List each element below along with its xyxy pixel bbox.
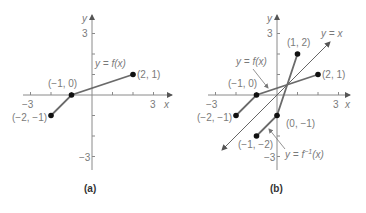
- finv-label-b: y = f−1(x): [284, 148, 324, 160]
- y-axis-label-b: y: [266, 13, 273, 24]
- point-label-b-f1: (−2, −1): [197, 112, 232, 123]
- point-label-b-g3: (1, 2): [287, 37, 310, 48]
- point-a-2: [69, 92, 75, 98]
- point-b-g1: [254, 133, 260, 139]
- caption-b: (b): [270, 183, 283, 194]
- point-label-b-f2: (−1, 0): [228, 78, 257, 89]
- point-b-f2: [254, 92, 260, 98]
- point-label-b-g1: (−1, −2): [238, 139, 273, 150]
- tick-x-neg-b: −3: [206, 99, 218, 110]
- point-a-3: [130, 72, 136, 78]
- point-label-b-f3: (2, 1): [322, 69, 345, 80]
- caption-a: (a): [84, 183, 96, 194]
- tick-y-neg-a: −3: [79, 152, 91, 163]
- figure: y x −3 3 3 −3 (−2, −1) (−1, 0) (2, 1) y …: [0, 0, 366, 213]
- y-axis-label-a: y: [81, 13, 88, 24]
- tick-x-pos-b: 3: [333, 99, 339, 110]
- point-b-g2: [274, 113, 280, 119]
- x-axis-label-b: x: [344, 99, 351, 110]
- panel-a: y x −3 3 3 −3 (−2, −1) (−1, 0) (2, 1) y …: [12, 13, 172, 194]
- point-a-1: [48, 113, 54, 119]
- curve-label-a: y = f(x): [94, 58, 126, 69]
- panel-b: y x −3 3 3 −3 y = x (−2, −1) (−1, 0) (2,…: [197, 13, 351, 194]
- tick-x-pos-a: 3: [150, 99, 156, 110]
- f-label-b: y = f(x): [235, 56, 267, 67]
- point-b-g3: [295, 51, 301, 57]
- point-label-a-2: (−1, 0): [48, 78, 77, 89]
- axes-a: [23, 15, 172, 170]
- point-b-f3: [315, 72, 321, 78]
- tick-y-pos-a: 3: [82, 28, 88, 39]
- point-label-a-1: (−2, −1): [12, 112, 47, 123]
- tick-y-pos-b: 3: [267, 28, 273, 39]
- x-axis-label-a: x: [163, 99, 170, 110]
- point-label-b-g2: (0, −1): [286, 118, 315, 129]
- point-label-a-3: (2, 1): [137, 69, 160, 80]
- tick-x-neg-a: −3: [22, 99, 34, 110]
- tick-y-neg-b: −3: [264, 152, 276, 163]
- identity-label: y = x: [320, 28, 343, 39]
- point-b-f1: [233, 113, 239, 119]
